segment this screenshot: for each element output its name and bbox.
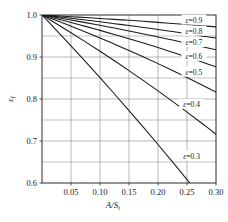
curve-label-0.8: ε=0.8: [186, 27, 203, 36]
curve-label-0.5: ε=0.5: [186, 68, 203, 77]
x-tick-label: 0.10: [93, 187, 108, 197]
x-axis-title: A/St: [105, 200, 121, 211]
y-tick-label: 0.7: [26, 136, 37, 146]
curve-label-0.9: ε=0.9: [186, 16, 203, 25]
svg-text:A/St: A/St: [105, 200, 121, 211]
line-chart: ε=0.9ε=0.8ε=0.7ε=0.6ε=0.5ε=0.4ε=0.3 0.05…: [0, 0, 228, 222]
y-tick-label: 0.6: [26, 178, 37, 188]
curve-label-0.7: ε=0.7: [186, 38, 203, 47]
y-tick-label: 1.0: [26, 10, 37, 20]
x-tick-label: 0.25: [180, 187, 195, 197]
curve-label-0.3: ε=0.3: [183, 152, 200, 161]
y-tick-label: 0.9: [26, 52, 37, 62]
curve-label-0.6: ε=0.6: [186, 52, 203, 61]
x-tick-label: 0.30: [209, 187, 224, 197]
y-axis-tick-labels: 0.60.70.80.91.0: [26, 10, 42, 188]
chart-figure: ε=0.9ε=0.8ε=0.7ε=0.6ε=0.5ε=0.4ε=0.3 0.05…: [0, 0, 228, 222]
svg-text:εf: εf: [5, 95, 16, 102]
y-tick-label: 0.8: [26, 94, 37, 104]
x-tick-label: 0.15: [122, 187, 137, 197]
y-axis-title: εf: [5, 95, 16, 102]
x-tick-label: 0.20: [151, 187, 166, 197]
x-axis-tick-labels: 0.050.100.150.200.250.30: [64, 183, 224, 197]
x-tick-label: 0.05: [64, 187, 79, 197]
curve-label-0.4: ε=0.4: [183, 100, 200, 109]
